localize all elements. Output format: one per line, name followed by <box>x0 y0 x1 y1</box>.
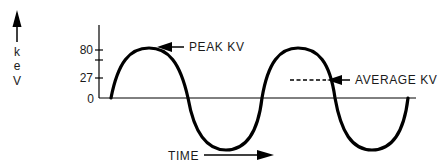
tick-label-0: 0 <box>87 92 94 106</box>
tick-label-27: 27 <box>80 71 94 85</box>
average-kv-label: AVERAGE KV <box>355 73 437 87</box>
y-unit-label-k: k <box>14 45 21 59</box>
sine-waveform <box>111 48 408 150</box>
kv-waveform-diagram: k e V 80 27 0 PEAK KV AVERAGE KV TIME <box>0 0 445 167</box>
y-unit-label-e: e <box>14 59 21 73</box>
peak-kv-label: PEAK KV <box>189 40 245 54</box>
y-unit-arrow-icon <box>13 10 22 42</box>
time-arrow-icon <box>204 150 274 160</box>
y-unit-label-v: V <box>13 74 21 88</box>
tick-label-80: 80 <box>80 43 94 57</box>
time-axis-label: TIME <box>168 149 199 163</box>
